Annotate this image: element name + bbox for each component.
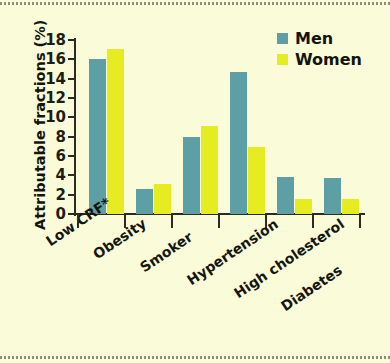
legend-swatch-women-icon [277, 54, 288, 65]
y-axis-tick [68, 116, 76, 118]
y-axis-tick [68, 97, 76, 99]
x-axis-label-diabetes: Diabetes [278, 262, 345, 314]
y-axis-tick [68, 78, 76, 80]
x-axis-label-obesity: Obesity [90, 215, 149, 262]
legend-label-women: Women [295, 52, 362, 68]
x-axis-label-smoker: Smoker [137, 229, 195, 276]
y-axis-tick [68, 39, 76, 41]
y-axis-tick [68, 136, 76, 138]
x-axis-tick [359, 215, 361, 228]
x-axis-tick [124, 215, 126, 228]
x-axis-tick [312, 215, 314, 228]
y-axis-tick [68, 155, 76, 157]
x-axis-tick [218, 215, 220, 228]
y-axis-tick [68, 213, 76, 215]
x-axis-label-high-cholesterol: High cholesterol [231, 216, 347, 302]
x-axis-tick [171, 215, 173, 228]
x-axis-tick [77, 215, 79, 228]
x-axis-tick [265, 215, 267, 228]
chart-figure: Attributable fractions (%) 0246810121416… [0, 0, 390, 363]
y-axis-tick [68, 194, 76, 196]
chart-legend: Men Women [277, 28, 362, 70]
y-axis-tick [68, 174, 76, 176]
y-axis-tick [68, 58, 76, 60]
legend-item-men[interactable]: Men [277, 28, 362, 49]
legend-swatch-men-icon [277, 33, 288, 44]
legend-label-men: Men [295, 31, 333, 47]
legend-item-women[interactable]: Women [277, 49, 362, 70]
